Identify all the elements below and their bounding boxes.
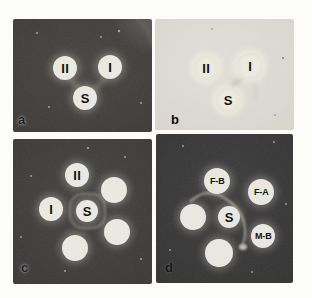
panel-c-photo: IIIS c — [13, 139, 152, 284]
precipitin-line — [251, 79, 256, 99]
precipitin-line — [70, 79, 83, 91]
panel-d-photo: F-BF-ASM-B d — [156, 134, 293, 283]
precipitin-line — [190, 193, 245, 246]
figure-page: IIIS a IIIS b IIIS c F- — [0, 0, 312, 298]
precipitin-line — [91, 78, 105, 91]
panel-letter-a: a — [18, 113, 25, 126]
precipitin-arcs-c — [13, 139, 152, 284]
panel-letter-c: c — [21, 261, 28, 274]
precipitin-line — [65, 231, 87, 235]
precipitin-line — [135, 19, 152, 46]
precipitin-line — [70, 194, 105, 228]
precipitin-arcs-a — [13, 19, 152, 132]
panel-letter-b: b — [171, 113, 179, 126]
precipitin-line — [231, 77, 245, 89]
precipitin-arcs-d — [156, 134, 293, 283]
panel-a-photo: IIIS a — [13, 19, 152, 132]
panel-b-photo: IIIS b — [155, 19, 294, 130]
panel-letter-d: d — [165, 261, 173, 274]
